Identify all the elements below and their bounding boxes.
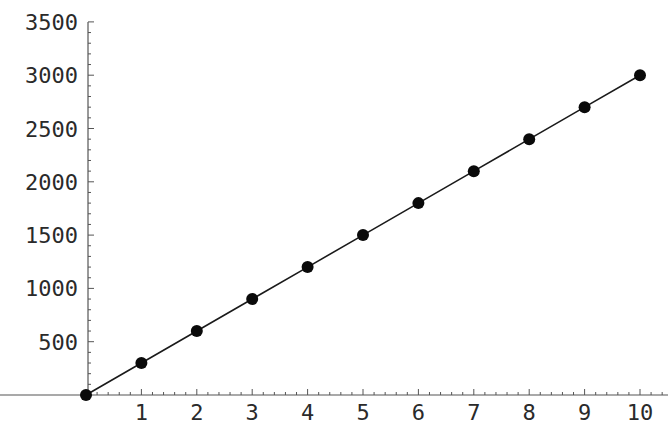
data-point (191, 325, 203, 337)
y-tick-label: 3500 (25, 10, 78, 35)
y-tick-label: 1500 (25, 223, 78, 248)
data-point (246, 293, 258, 305)
x-tick-label: 1 (135, 400, 148, 425)
data-point (80, 389, 92, 401)
data-point (579, 101, 591, 113)
x-tick-label: 7 (467, 400, 480, 425)
data-point (135, 357, 147, 369)
x-tick-label: 10 (627, 400, 654, 425)
data-point (468, 165, 480, 177)
x-tick-label: 3 (246, 400, 259, 425)
y-tick-label: 2500 (25, 117, 78, 142)
axes (0, 22, 668, 395)
y-axis-ticks: 500100015002000250030003500 (25, 10, 94, 384)
x-tick-label: 5 (356, 400, 369, 425)
y-tick-label: 2000 (25, 170, 78, 195)
x-tick-label: 9 (578, 400, 591, 425)
y-tick-label: 3000 (25, 63, 78, 88)
x-tick-label: 6 (412, 400, 425, 425)
data-series (80, 69, 646, 401)
line-chart: 500100015002000250030003500 12345678910 (0, 0, 671, 448)
x-tick-label: 4 (301, 400, 314, 425)
data-point (634, 69, 646, 81)
data-point (302, 261, 314, 273)
x-tick-label: 8 (523, 400, 536, 425)
x-tick-label: 2 (190, 400, 203, 425)
data-point (523, 133, 535, 145)
data-point (412, 197, 424, 209)
y-tick-label: 1000 (25, 276, 78, 301)
data-point (357, 229, 369, 241)
y-tick-label: 500 (38, 330, 78, 355)
